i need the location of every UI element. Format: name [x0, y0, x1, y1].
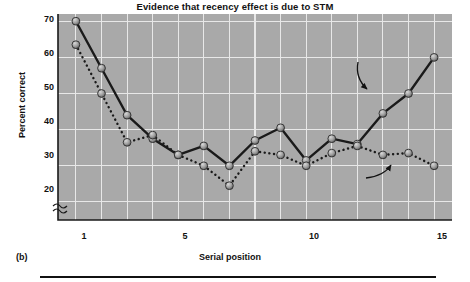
bottom-divider	[40, 276, 436, 278]
data-point	[149, 131, 157, 139]
data-point	[277, 124, 285, 132]
data-point	[123, 111, 131, 119]
data-point	[353, 142, 361, 150]
data-point	[226, 162, 234, 170]
data-point	[98, 64, 106, 72]
data-point	[430, 162, 438, 170]
data-point	[379, 151, 387, 159]
data-point	[72, 41, 80, 49]
data-point	[72, 17, 80, 25]
data-point	[251, 147, 259, 155]
data-point	[200, 142, 208, 150]
data-point	[174, 151, 182, 159]
data-point	[328, 135, 336, 143]
data-point	[98, 90, 106, 98]
data-point	[405, 90, 413, 98]
data-point	[123, 138, 131, 146]
plot-area	[0, 0, 470, 282]
data-point	[200, 162, 208, 170]
data-point	[302, 162, 310, 170]
data-point	[430, 54, 438, 62]
data-point	[328, 149, 336, 157]
data-point	[277, 151, 285, 159]
data-point	[226, 182, 234, 190]
data-point	[405, 149, 413, 157]
figure-panel: Evidence that recency effect is due to S…	[0, 0, 470, 282]
data-point	[251, 137, 259, 145]
data-point	[379, 110, 387, 118]
